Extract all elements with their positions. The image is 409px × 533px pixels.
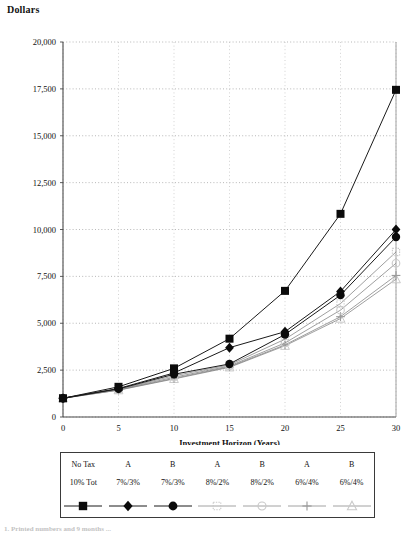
legend-marker-icon: [241, 496, 283, 516]
chart-plot-area: 02,5005,0007,50010,00012,50015,00017,500…: [0, 0, 409, 445]
marker-filled-square: [170, 364, 178, 372]
x-axis-tick-label: 30: [392, 423, 401, 433]
chart-series: [59, 248, 399, 401]
x-axis-title: Investment Horizon (Years): [179, 438, 280, 445]
legend-label-bottom: 6%/4%: [340, 479, 364, 487]
legend-marker-icon: [331, 496, 373, 516]
x-axis-tick-label: 25: [336, 423, 345, 433]
legend-label-bottom: 6%/4%: [295, 479, 319, 487]
legend-marker-icon: [196, 496, 238, 516]
y-axis-tick-label: 15,000: [33, 131, 56, 141]
legend-grid: No TaxABABAB10% Tot7%/3%7%/3%8%/2%8%/2%6…: [61, 453, 374, 517]
marker-filled-circle: [168, 502, 177, 511]
y-axis-tick-label: 20,000: [33, 37, 56, 47]
chart-svg: 02,5005,0007,50010,00012,50015,00017,500…: [0, 0, 409, 445]
y-axis-tick-label: 5,000: [37, 318, 56, 328]
marker-filled-diamond: [225, 343, 234, 353]
marker-plus-cross: [302, 501, 311, 510]
legend-marker-icon: [286, 496, 328, 516]
legend-label-bottom: 8%/2%: [206, 479, 230, 487]
y-axis-tick-label: 7,500: [37, 271, 56, 281]
legend-label-bottom: 7%/3%: [116, 479, 140, 487]
legend-label-top: No Tax: [72, 458, 96, 469]
legend-label-top: A: [304, 458, 310, 469]
legend-marker-swatch: [150, 493, 195, 519]
marker-filled-square: [115, 383, 123, 391]
legend-label-top: A: [215, 458, 221, 469]
legend-marker-swatch: [106, 493, 151, 519]
legend-label-top: B: [170, 458, 175, 469]
marker-filled-circle: [225, 360, 233, 368]
legend-marker-swatch: [195, 493, 240, 519]
marker-plus-cross: [392, 271, 401, 280]
y-axis-tick-label: 2,500: [37, 365, 56, 375]
legend-marker-icon: [107, 496, 149, 516]
marker-open-triangle: [347, 501, 356, 510]
x-axis-tick-label: 15: [225, 423, 234, 433]
series-line: [63, 252, 396, 398]
legend-marker-icon: [152, 496, 194, 516]
x-axis-tick-label: 10: [170, 423, 179, 433]
legend-label-bottom: 7%/3%: [161, 479, 185, 487]
legend-label-bottom: 10% Tot: [70, 479, 97, 487]
marker-filled-square: [59, 394, 67, 402]
legend-label-top: A: [125, 458, 131, 469]
marker-filled-square: [226, 335, 234, 343]
marker-filled-square: [281, 287, 289, 295]
legend-marker-swatch: [61, 493, 106, 519]
marker-filled-square: [79, 502, 87, 510]
legend-marker-swatch: [240, 493, 285, 519]
legend-label-top: B: [349, 458, 354, 469]
y-axis-tick-label: 12,500: [33, 178, 56, 188]
y-axis-tick-label: 0: [52, 412, 56, 422]
marker-filled-square: [337, 210, 345, 218]
legend-marker-swatch: [285, 493, 330, 519]
legend-marker-swatch: [329, 493, 374, 519]
x-axis-tick-label: 0: [61, 423, 65, 433]
legend-label-top: B: [260, 458, 265, 469]
legend-marker-icon: [62, 496, 104, 516]
legend-label-bottom: 8%/2%: [250, 479, 274, 487]
chart-legend: No TaxABABAB10% Tot7%/3%7%/3%8%/2%8%/2%6…: [60, 452, 375, 518]
marker-filled-diamond: [123, 501, 132, 512]
x-axis-tick-label: 5: [116, 423, 120, 433]
footer-note: 1. Printed numbers and 9 months ...: [4, 525, 304, 533]
y-axis-tick-label: 17,500: [33, 84, 56, 94]
x-axis-tick-label: 20: [281, 423, 290, 433]
marker-filled-square: [392, 86, 400, 94]
y-axis-tick-label: 10,000: [33, 225, 56, 235]
